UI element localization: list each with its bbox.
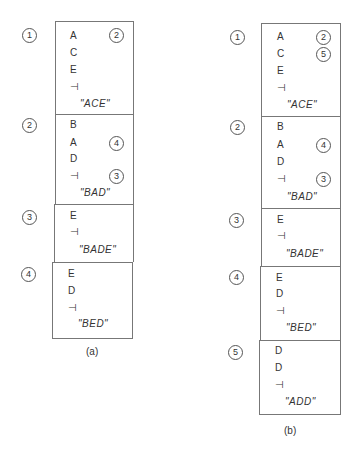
node-label-1: 1 bbox=[230, 30, 245, 45]
node-label-4: 4 bbox=[21, 267, 36, 282]
end-marker: ⊣ bbox=[277, 173, 286, 184]
pointer-3: 3 bbox=[316, 172, 331, 187]
pointer-4: 4 bbox=[316, 138, 331, 153]
node-label-4: 4 bbox=[229, 270, 244, 285]
symbol: C bbox=[70, 47, 77, 58]
end-marker: ⊣ bbox=[70, 170, 79, 181]
end-marker: ⊣ bbox=[277, 230, 286, 241]
pointer-2: 2 bbox=[109, 28, 124, 43]
symbol: D bbox=[68, 285, 75, 296]
word-label: "BED" bbox=[78, 318, 108, 329]
node-label-1: 1 bbox=[22, 28, 37, 43]
symbol: D bbox=[276, 288, 283, 299]
symbol: D bbox=[275, 362, 282, 373]
end-marker: ⊣ bbox=[70, 81, 79, 92]
end-marker: ⊣ bbox=[276, 305, 285, 316]
node-label-3: 3 bbox=[229, 213, 244, 228]
symbol: A bbox=[277, 139, 284, 150]
symbol: E bbox=[277, 214, 284, 225]
end-marker: ⊣ bbox=[277, 82, 286, 93]
figure-caption-a: (a) bbox=[86, 346, 98, 357]
symbol: B bbox=[70, 119, 77, 130]
symbol: A bbox=[70, 30, 77, 41]
pointer-3: 3 bbox=[109, 169, 124, 184]
symbol: E bbox=[70, 210, 77, 221]
symbol: B bbox=[277, 121, 284, 132]
node-label-3: 3 bbox=[22, 210, 37, 225]
node-label-2: 2 bbox=[22, 118, 37, 133]
symbol: D bbox=[70, 153, 77, 164]
symbol: E bbox=[276, 272, 283, 283]
word-label: "BADE" bbox=[286, 248, 323, 259]
symbol: E bbox=[70, 64, 77, 75]
word-label: "ACE" bbox=[287, 99, 317, 110]
end-marker: ⊣ bbox=[275, 379, 284, 390]
word-label: "BADE" bbox=[79, 244, 116, 255]
word-label: "BED" bbox=[286, 322, 316, 333]
figure-caption-b: (b) bbox=[284, 425, 296, 436]
node-label-2: 2 bbox=[230, 120, 245, 135]
word-label: "BAD" bbox=[80, 187, 110, 198]
end-marker: ⊣ bbox=[68, 302, 77, 313]
pointer-2: 2 bbox=[316, 30, 331, 45]
pointer-4: 4 bbox=[109, 136, 124, 151]
symbol: E bbox=[277, 65, 284, 76]
node-label-5: 5 bbox=[228, 345, 243, 360]
word-label: "ACE" bbox=[80, 98, 110, 109]
symbol: A bbox=[70, 137, 77, 148]
symbol: E bbox=[68, 268, 75, 279]
end-marker: ⊣ bbox=[70, 226, 79, 237]
pointer-5: 5 bbox=[316, 47, 331, 62]
word-label: "ADD" bbox=[285, 396, 316, 407]
symbol: D bbox=[277, 156, 284, 167]
symbol: A bbox=[277, 31, 284, 42]
symbol: C bbox=[277, 48, 284, 59]
word-label: "BAD" bbox=[287, 191, 317, 202]
symbol: D bbox=[275, 345, 282, 356]
